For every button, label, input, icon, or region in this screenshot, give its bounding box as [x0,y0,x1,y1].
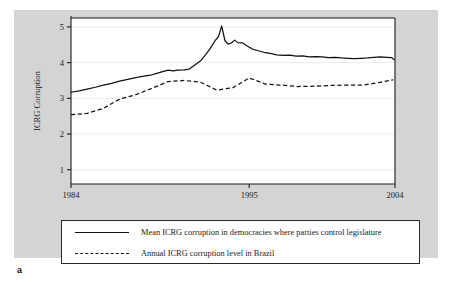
x-tick-label: 1984 [63,190,81,200]
legend-swatch-solid-line [75,232,129,233]
legend-swatch-dashed-line [75,253,129,254]
y-axis-title: ICRG Corruption [32,70,42,130]
chart-legend: Mean ICRG corruption in democracies wher… [61,220,420,264]
legend-label-brazil: Annual ICRG corruption level in Brazil [141,249,274,258]
x-tick-label: 2004 [387,190,405,200]
x-tick-label: 1995 [241,190,258,200]
legend-label-mean: Mean ICRG corruption in democracies wher… [141,228,381,237]
y-tick-label: 1 [60,165,64,175]
y-tick-label: 2 [60,129,64,139]
legend-item-brazil: Annual ICRG corruption level in Brazil [62,243,419,264]
plot-background [71,18,395,184]
figure-panel: 12345198419952004 ICRG Corruption Mean I… [14,10,438,258]
panel-letter-label: a [17,265,22,275]
y-tick-label: 4 [60,58,65,68]
legend-item-mean: Mean ICRG corruption in democracies wher… [62,222,419,243]
y-tick-label: 5 [60,22,64,32]
y-tick-label: 3 [60,93,64,103]
